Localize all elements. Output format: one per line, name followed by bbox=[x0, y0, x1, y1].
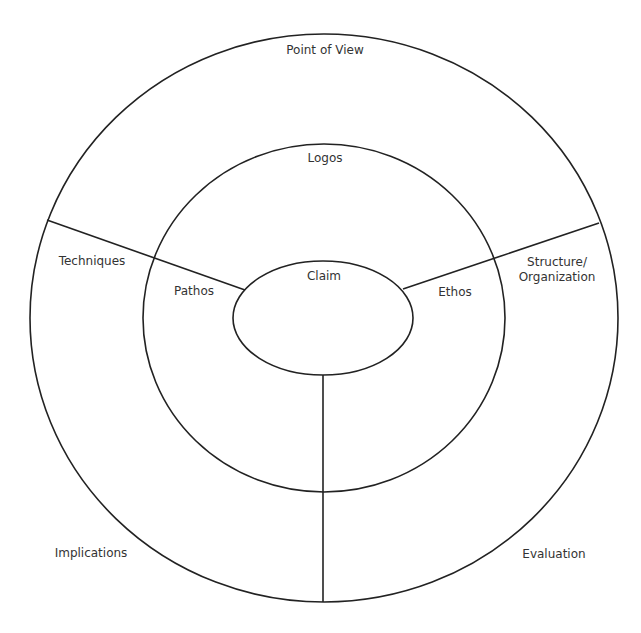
label-ethos: Ethos bbox=[438, 285, 472, 300]
middle-ring bbox=[143, 144, 505, 492]
label-point-of-view: Point of View bbox=[286, 43, 363, 58]
label-logos: Logos bbox=[307, 151, 342, 166]
concentric-rhetoric-diagram bbox=[0, 0, 641, 633]
label-claim: Claim bbox=[307, 269, 341, 284]
label-techniques: Techniques bbox=[59, 254, 126, 269]
label-structure-line2: Organization bbox=[519, 270, 596, 285]
outer-ring bbox=[30, 34, 618, 602]
label-structure-line1: Structure/ bbox=[519, 255, 596, 270]
label-evaluation: Evaluation bbox=[522, 547, 585, 562]
label-structure-organization: Structure/ Organization bbox=[519, 255, 596, 285]
label-pathos: Pathos bbox=[174, 284, 214, 299]
label-implications: Implications bbox=[55, 546, 128, 561]
